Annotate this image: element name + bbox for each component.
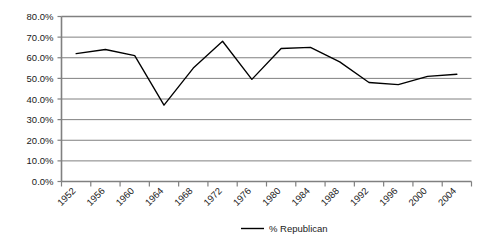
y-axis-tick-label: 40.0%	[27, 94, 54, 105]
y-axis-tick-label: 70.0%	[27, 32, 54, 43]
y-axis-tick-label: 0.0%	[32, 176, 54, 187]
y-axis-tick-label: 20.0%	[27, 135, 54, 146]
line-chart: 0.0%10.0%20.0%30.0%40.0%50.0%60.0%70.0%8…	[0, 0, 490, 243]
y-axis-tick-label: 10.0%	[27, 155, 54, 166]
y-axis-tick-label: 30.0%	[27, 114, 54, 125]
y-axis-tick-label: 80.0%	[27, 11, 54, 22]
y-axis-tick-label: 60.0%	[27, 52, 54, 63]
y-axis-tick-labels: 0.0%10.0%20.0%30.0%40.0%50.0%60.0%70.0%8…	[27, 11, 54, 187]
legend-item-label: % Republican	[269, 223, 328, 234]
chart-canvas: 0.0%10.0%20.0%30.0%40.0%50.0%60.0%70.0%8…	[0, 0, 490, 243]
y-axis-tick-label: 50.0%	[27, 73, 54, 84]
chart-background	[0, 0, 490, 243]
